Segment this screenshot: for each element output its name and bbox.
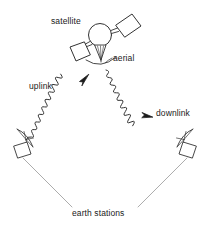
solar-panel-right-strut [111, 28, 118, 31]
satellite-diagram: satellite aerial uplink downlink earth s… [0, 0, 211, 231]
solar-panel-right-icon [116, 14, 141, 37]
right-station-box-icon [179, 142, 196, 158]
downlink-wave-path [106, 70, 134, 126]
label-uplink: uplink [29, 82, 52, 91]
left-station-box-icon [14, 142, 31, 158]
label-downlink: downlink [156, 109, 190, 118]
solar-panel-left-icon [70, 42, 90, 61]
right-station-feed-4 [177, 138, 185, 140]
downlink-arrowhead-icon [142, 113, 153, 118]
uplink-arrowhead-icon [80, 75, 89, 86]
left-station-mast [26, 140, 27, 143]
label-satellite: satellite [51, 17, 81, 26]
label-earth-stations: earth stations [72, 209, 124, 218]
solar-panel-left-strut [86, 42, 91, 45]
solar-panel-left-strut-2 [87, 45, 92, 47]
right-station-leader-line [138, 158, 187, 207]
solar-panel-right-strut-2 [112, 32, 119, 34]
right-station-mast [184, 140, 185, 143]
label-aerial: aerial [113, 54, 134, 63]
satellite-body-icon [89, 24, 112, 47]
left-station-leader-line [23, 158, 72, 207]
